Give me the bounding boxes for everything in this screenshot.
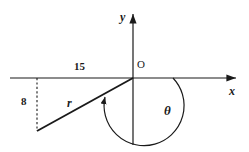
terminal-ray xyxy=(37,78,133,131)
origin-label: O xyxy=(137,59,145,70)
x-axis-label: x xyxy=(229,85,235,97)
radius-label: r xyxy=(67,97,72,109)
coordinate-diagram-figure: y x O 15 8 r θ xyxy=(0,0,249,152)
horizontal-leg-length-label: 15 xyxy=(74,61,85,72)
angle-theta-label: θ xyxy=(164,104,171,117)
y-axis-label: y xyxy=(120,11,125,23)
vertical-leg-length-label: 8 xyxy=(21,96,27,107)
